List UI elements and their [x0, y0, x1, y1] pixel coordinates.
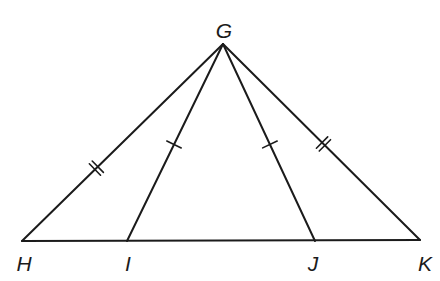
congruence-tick-GI-1: [167, 141, 181, 148]
base-segment-HK: [22, 240, 420, 241]
segments-layer: [22, 44, 420, 241]
congruence-tick-GJ-1: [263, 141, 277, 148]
vertex-label-J: J: [308, 253, 319, 274]
tick-marks-layer: [89, 137, 330, 175]
vertex-label-I: I: [125, 253, 131, 274]
cevian-segment-GI: [127, 44, 223, 241]
tick-mark-group-GJ: [263, 141, 277, 148]
segment-HG: [22, 44, 223, 241]
geometry-figure: GHIJK: [0, 0, 440, 281]
cevian-segment-GJ: [223, 44, 315, 241]
tick-mark-group-GI: [167, 141, 181, 148]
vertex-label-K: K: [418, 253, 432, 274]
triangle-diagram-canvas: [0, 0, 440, 281]
vertex-label-H: H: [16, 253, 31, 274]
vertex-label-G: G: [216, 20, 232, 41]
